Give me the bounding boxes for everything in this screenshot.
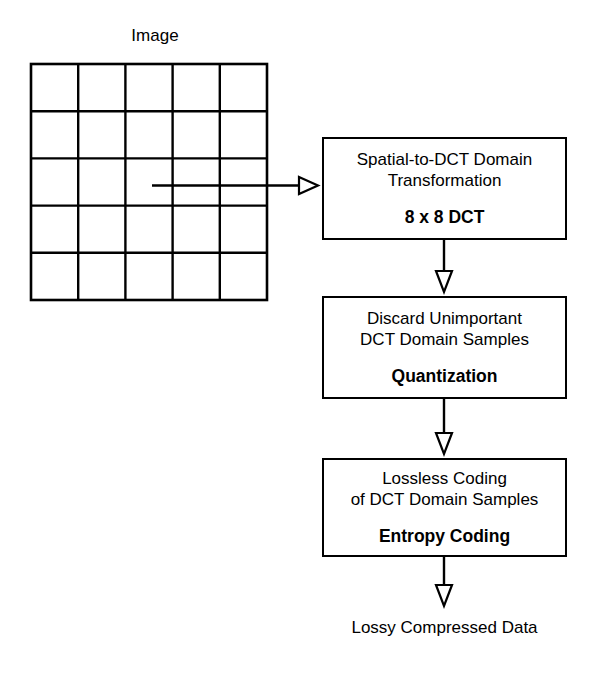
- stage-box-entropy-coding: Lossless Coding of DCT Domain Samples En…: [322, 458, 567, 557]
- connector-quantize-to-entropy: [436, 399, 452, 454]
- stage-spatial-to-dct-line2: Transformation: [388, 170, 502, 191]
- image-grid: [31, 64, 267, 300]
- image-grid-frame: [31, 64, 267, 300]
- image-grid-title: Image: [90, 26, 220, 46]
- stage-quantization-line2: DCT Domain Samples: [360, 329, 529, 350]
- stage-spatial-to-dct-line1: Spatial-to-DCT Domain: [357, 149, 532, 170]
- stage-spatial-to-dct-emphasis: 8 x 8 DCT: [405, 207, 485, 228]
- stage-entropy-coding-emphasis: Entropy Coding: [379, 526, 510, 547]
- connector-entropy-to-output: [436, 557, 452, 606]
- jpeg-pipeline-diagram: Image Spatial-to-DCT Domain Transformati…: [0, 0, 599, 688]
- stage-box-spatial-to-dct: Spatial-to-DCT Domain Transformation 8 x…: [322, 137, 567, 240]
- stage-entropy-coding-line2: of DCT Domain Samples: [351, 489, 539, 510]
- stage-entropy-coding-line1: Lossless Coding: [382, 468, 507, 489]
- stage-box-quantization: Discard Unimportant DCT Domain Samples Q…: [322, 296, 567, 399]
- stage-quantization-emphasis: Quantization: [392, 366, 498, 387]
- output-caption: Lossy Compressed Data: [322, 617, 567, 638]
- stage-quantization-line1: Discard Unimportant: [367, 308, 522, 329]
- connector-transform-to-quantize: [436, 240, 452, 292]
